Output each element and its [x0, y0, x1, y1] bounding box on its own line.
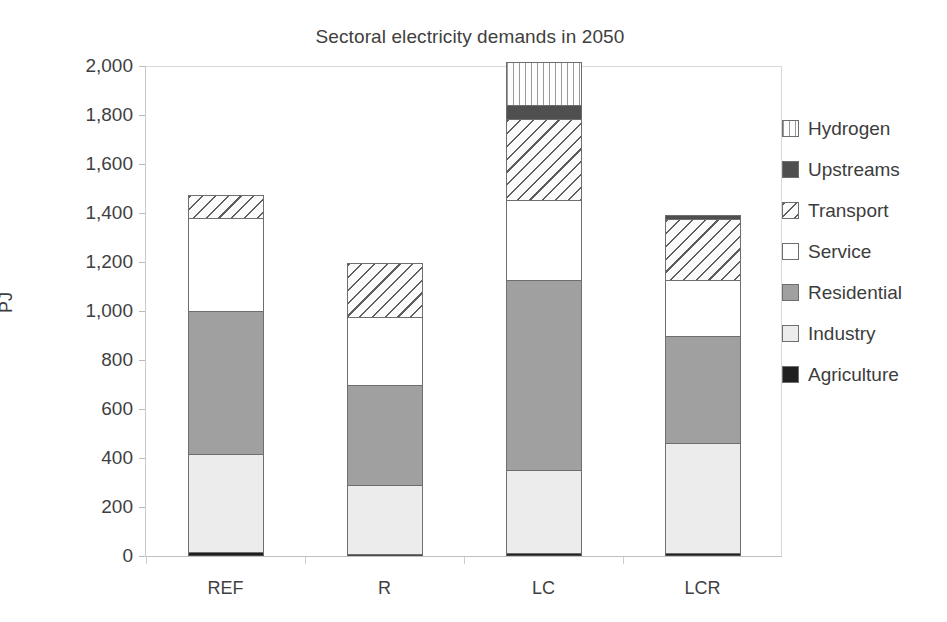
legend-item-service[interactable]: Service: [782, 231, 947, 272]
legend-swatch-icon: [782, 202, 799, 219]
legend-swatch-icon: [782, 366, 799, 383]
y-axis-labels: 2,0001,8001,6001,4001,2001,0008006004002…: [0, 0, 133, 622]
legend-item-upstreams[interactable]: Upstreams: [782, 149, 947, 190]
y-axis-tick-label: 1,600: [85, 153, 133, 175]
bars-layer: [146, 66, 782, 556]
bar-group-lcr[interactable]: [665, 66, 741, 556]
y-axis-tick-label: 400: [101, 447, 133, 469]
legend-item-label: Agriculture: [808, 365, 899, 384]
x-axis-tick-mark: [305, 557, 306, 564]
y-axis-tick-label: 800: [101, 349, 133, 371]
x-axis-tick-label: LC: [532, 578, 555, 599]
bar-segment-transport[interactable]: [188, 195, 264, 218]
legend-item-label: Transport: [808, 201, 889, 220]
bar-segment-residential[interactable]: [665, 336, 741, 444]
bar-segment-agriculture[interactable]: [665, 553, 741, 556]
legend-item-agriculture[interactable]: Agriculture: [782, 354, 947, 395]
y-axis-tick-label: 1,800: [85, 104, 133, 126]
legend-swatch-icon: [782, 161, 799, 178]
legend-swatch-icon: [782, 284, 799, 301]
bar-segment-service[interactable]: [665, 280, 741, 335]
legend-item-label: Residential: [808, 283, 902, 302]
chart-legend: HydrogenUpstreamsTransportServiceResiden…: [782, 108, 947, 395]
bar-segment-residential[interactable]: [347, 385, 423, 485]
bar-segment-industry[interactable]: [347, 485, 423, 554]
y-axis-tick-label: 1,000: [85, 300, 133, 322]
bar-group-r[interactable]: [347, 66, 423, 556]
x-axis-tick-mark: [464, 557, 465, 564]
chart-title: Sectoral electricity demands in 2050: [170, 26, 770, 48]
x-axis-tick-label: R: [378, 578, 391, 599]
bar-segment-service[interactable]: [188, 218, 264, 311]
legend-item-label: Upstreams: [808, 160, 900, 179]
bar-segment-transport[interactable]: [506, 119, 582, 200]
y-axis-tick-label: 200: [101, 496, 133, 518]
bar-segment-upstreams[interactable]: [506, 105, 582, 118]
bar-segment-residential[interactable]: [188, 311, 264, 454]
y-axis-tick-label: 600: [101, 398, 133, 420]
bar-segment-industry[interactable]: [506, 470, 582, 553]
bar-segment-service[interactable]: [347, 317, 423, 384]
legend-item-label: Hydrogen: [808, 119, 890, 138]
bar-segment-transport[interactable]: [665, 219, 741, 280]
x-axis-tick-label: LCR: [684, 578, 720, 599]
bar-group-ref[interactable]: [188, 66, 264, 556]
legend-item-residential[interactable]: Residential: [782, 272, 947, 313]
bar-segment-industry[interactable]: [665, 443, 741, 553]
legend-swatch-icon: [782, 243, 799, 260]
bar-segment-transport[interactable]: [347, 263, 423, 317]
bar-segment-agriculture[interactable]: [347, 554, 423, 556]
bar-segment-industry[interactable]: [188, 454, 264, 552]
x-axis-tick-mark: [623, 557, 624, 564]
bar-segment-service[interactable]: [506, 200, 582, 281]
y-axis-tick-label: 1,200: [85, 251, 133, 273]
bar-group-lc[interactable]: [506, 66, 582, 556]
bar-segment-hydrogen[interactable]: [506, 62, 582, 105]
x-axis-tick-mark: [146, 557, 147, 564]
legend-item-label: Service: [808, 242, 871, 261]
bar-segment-agriculture[interactable]: [506, 553, 582, 556]
legend-swatch-icon: [782, 325, 799, 342]
bar-segment-upstreams[interactable]: [665, 215, 741, 219]
y-axis-tick-label: 1,400: [85, 202, 133, 224]
legend-item-hydrogen[interactable]: Hydrogen: [782, 108, 947, 149]
x-axis-tick-label: REF: [208, 578, 244, 599]
legend-item-transport[interactable]: Transport: [782, 190, 947, 231]
legend-item-industry[interactable]: Industry: [782, 313, 947, 354]
legend-swatch-icon: [782, 120, 799, 137]
y-axis-tick-label: 0: [122, 545, 133, 567]
bar-segment-agriculture[interactable]: [188, 552, 264, 556]
bar-segment-residential[interactable]: [506, 280, 582, 470]
y-axis-tick-label: 2,000: [85, 55, 133, 77]
chart-container: Sectoral electricity demands in 2050 PJ …: [0, 0, 947, 622]
legend-item-label: Industry: [808, 324, 876, 343]
